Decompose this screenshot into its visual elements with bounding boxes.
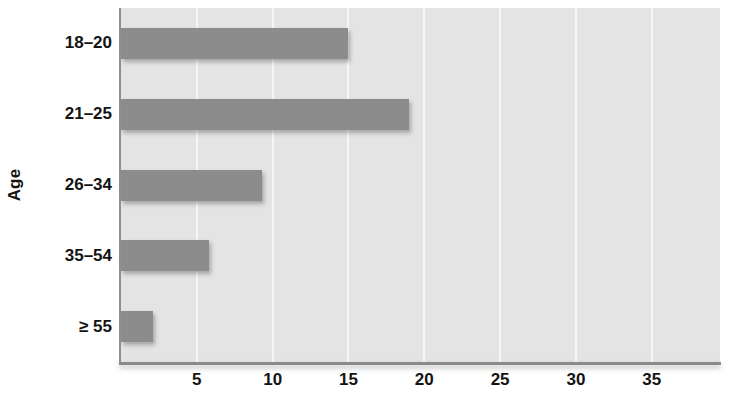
x-axis-tick-label: 30 [566,370,585,390]
x-axis-line [119,362,721,365]
y-axis-title-text: Age [5,169,25,202]
y-axis-tick-labels: 18–2021–2526–3435–54≥ 55 [26,0,112,407]
gridline [651,8,653,362]
x-axis-tick-label: 15 [339,370,358,390]
x-axis-tick-label: 35 [642,370,661,390]
bar-chart: Age 18–2021–2526–3435–54≥ 55 51015202530… [0,0,740,407]
y-axis-tick-label: 21–25 [26,104,112,124]
x-axis-tick-label: 25 [491,370,510,390]
x-axis-tick-labels: 5101520253035 [121,370,720,400]
x-axis-tick-label: 20 [415,370,434,390]
y-axis-tick-label: 26–34 [26,175,112,195]
gridline [272,8,274,362]
bar [121,311,153,342]
gridline [423,8,425,362]
bar [121,240,209,271]
gridline [499,8,501,362]
bar [121,170,262,201]
y-axis-line [119,8,121,363]
y-axis-tick-label: ≥ 55 [26,317,112,337]
plot-area [121,8,720,362]
x-axis-tick-label: 5 [192,370,201,390]
y-axis-tick-label: 35–54 [26,246,112,266]
gridline [575,8,577,362]
bar [121,28,348,59]
bar [121,99,409,130]
x-axis-tick-label: 10 [263,370,282,390]
gridline [347,8,349,362]
y-axis-tick-label: 18–20 [26,33,112,53]
